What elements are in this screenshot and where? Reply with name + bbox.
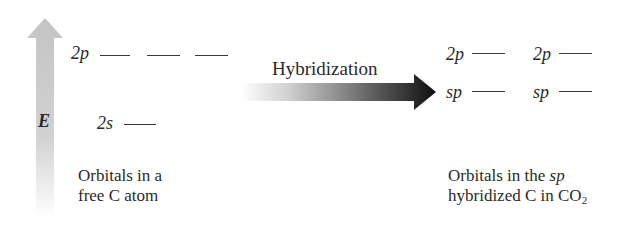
hybridized-caption-line2: hybridized C in CO2 [448,186,587,210]
hyb-2p-orbital-2 [559,53,592,54]
energy-axis-label: E [38,111,50,132]
free-2p-orbital-3 [195,55,228,56]
hyb-2p-label-1: 2p [446,45,464,63]
free-atom-caption-line2: free C atom [78,186,162,206]
hybridization-arrow [240,73,440,113]
hybridized-caption: Orbitals in the sp hybridized C in CO2 [448,166,587,210]
free-atom-caption: Orbitals in a free C atom [78,166,162,206]
free-2s-orbital [124,124,156,125]
free-2p-label: 2p [71,44,89,62]
hyb-sp-orbital-2 [559,91,592,92]
hyb-sp-orbital-1 [472,91,505,92]
hyb-sp-label-2: sp [533,83,549,101]
hybridized-caption-line1: Orbitals in the sp [448,166,587,186]
hyb-2p-label-2: 2p [533,45,551,63]
hyb-2p-orbital-1 [472,53,505,54]
free-2p-orbital-2 [147,55,180,56]
free-atom-caption-line1: Orbitals in a [78,166,162,186]
hyb-sp-label-1: sp [446,83,462,101]
free-2p-orbital-1 [100,55,130,56]
free-2s-label: 2s [97,114,113,132]
